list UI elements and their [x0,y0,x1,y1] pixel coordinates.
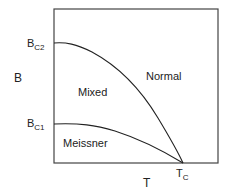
region-normal-label: Normal [146,71,181,82]
x-tick-tc: TC [176,168,189,180]
region-meissner-label: Meissner [63,138,108,149]
phase-diagram-plot [0,0,231,195]
y-tick-bc1: BC1 [27,118,45,130]
y-axis-label: B [14,73,22,84]
region-mixed-label: Mixed [78,87,107,98]
x-axis-label: T [143,178,150,189]
y-tick-bc2: BC2 [27,38,45,50]
